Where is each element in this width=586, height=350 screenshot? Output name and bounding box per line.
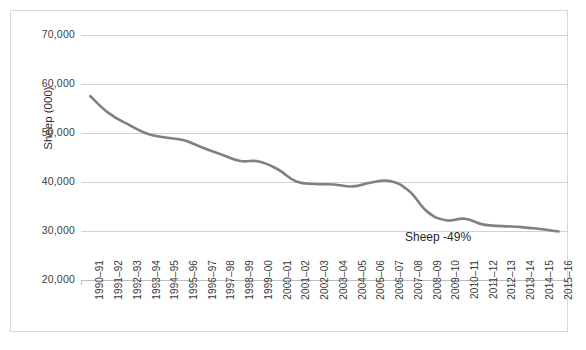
x-axis-tick-label: 1993–94 <box>151 260 162 332</box>
gridline <box>81 133 568 134</box>
x-axis-tick-mark <box>81 281 82 285</box>
x-axis-tick-mark <box>325 281 326 285</box>
x-axis-tick-mark <box>212 281 213 285</box>
x-axis-tick-label: 2009–10 <box>450 260 461 332</box>
gridline <box>81 231 568 232</box>
x-axis-tick-mark <box>175 281 176 285</box>
x-axis-tick-label: 1996–97 <box>207 260 218 332</box>
x-axis-tick-mark <box>512 281 513 285</box>
x-axis-tick-mark <box>362 281 363 285</box>
x-axis-tick-label: 2006–07 <box>394 260 405 332</box>
x-axis-tick-mark <box>568 281 569 285</box>
x-axis-tick-label: 2010–11 <box>469 260 480 332</box>
x-axis-tick-label: 1999–00 <box>263 260 274 332</box>
x-axis-tick-label: 1994–95 <box>169 260 180 332</box>
x-axis-tick-mark <box>250 281 251 285</box>
x-axis-tick-mark <box>381 281 382 285</box>
x-axis-tick-mark <box>118 281 119 285</box>
x-axis-tick-label: 2014–15 <box>544 260 555 332</box>
x-axis-tick-label: 1997–98 <box>225 260 236 332</box>
x-axis-tick-mark <box>531 281 532 285</box>
x-axis-tick-label: 2007–08 <box>413 260 424 332</box>
x-axis-tick-label: 2015–16 <box>563 260 574 332</box>
x-axis-tick-mark <box>474 281 475 285</box>
x-axis-tick-mark <box>456 281 457 285</box>
x-axis-tick-mark <box>100 281 101 285</box>
x-axis-tick-mark <box>306 281 307 285</box>
x-axis-tick-label: 2002–03 <box>319 260 330 332</box>
gridline <box>81 182 568 183</box>
x-axis-tick-mark <box>268 281 269 285</box>
x-axis-tick-label: 2003–04 <box>338 260 349 332</box>
x-axis-tick-mark <box>399 281 400 285</box>
x-axis-tick-mark <box>156 281 157 285</box>
x-axis-tick-label: 2000–01 <box>282 260 293 332</box>
x-axis-tick-label: 2005–06 <box>375 260 386 332</box>
x-axis-tick-label: 1990–91 <box>94 260 105 332</box>
x-axis-tick-label: 2001–02 <box>300 260 311 332</box>
x-axis-tick-mark <box>493 281 494 285</box>
x-axis-tick-label: 2004–05 <box>357 260 368 332</box>
x-axis-tick-mark <box>231 281 232 285</box>
series-annotation-sheep: Sheep -49% <box>405 230 471 244</box>
x-axis-tick-label: 1991–92 <box>113 260 124 332</box>
x-axis-tick-mark <box>287 281 288 285</box>
gridline <box>81 35 568 36</box>
x-axis-tick-mark <box>137 281 138 285</box>
x-axis-tick-label: 2013–14 <box>525 260 536 332</box>
x-axis-tick-label: 1995–96 <box>188 260 199 332</box>
x-axis-tick-mark <box>549 281 550 285</box>
x-axis-tick-mark <box>437 281 438 285</box>
x-axis-tick-mark <box>193 281 194 285</box>
gridline <box>81 84 568 85</box>
x-axis-tick-label: 2012–13 <box>506 260 517 332</box>
x-axis-tick-label: 1998–99 <box>244 260 255 332</box>
x-axis-tick-label: 2011–12 <box>488 260 499 332</box>
x-axis-tick-label: 1992–93 <box>132 260 143 332</box>
x-axis-tick-mark <box>418 281 419 285</box>
y-axis-title: Sheep (000) <box>42 38 54 198</box>
x-axis-tick-mark <box>343 281 344 285</box>
x-axis-tick-label: 2008–09 <box>432 260 443 332</box>
